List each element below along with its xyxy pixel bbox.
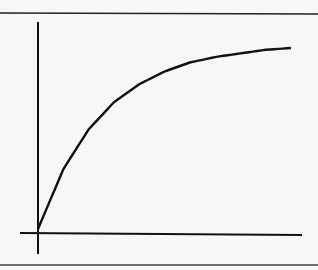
top-border <box>0 13 318 14</box>
chart-figure <box>0 0 318 270</box>
data-curve <box>38 48 291 229</box>
chart-svg <box>0 0 318 270</box>
x-axis <box>20 233 302 235</box>
